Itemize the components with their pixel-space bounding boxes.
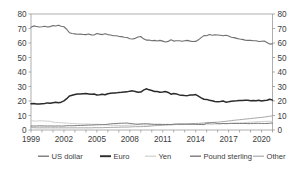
chart-container: 01020304050607080 01020304050607080 1999…: [0, 0, 304, 170]
legend-label-us-dollar: US dollar: [52, 152, 84, 161]
y-tick-label-left: 70: [17, 25, 27, 34]
y-tick-label-left: 30: [17, 83, 27, 92]
x-tick-label: 2020: [252, 135, 271, 144]
y-tick-label-left: 0: [22, 126, 27, 135]
y-tick-label-left: 60: [17, 39, 27, 48]
x-tick-label: 2002: [55, 135, 74, 144]
x-tick-label: 2005: [88, 135, 107, 144]
currency-composition-line-chart: 01020304050607080 01020304050607080 1999…: [0, 0, 304, 170]
y-tick-label-right: 40: [278, 68, 288, 77]
y-tick-label-right: 60: [278, 39, 288, 48]
y-tick-label-right: 0: [278, 126, 283, 135]
chart-legend: US dollarEuroYenPound sterlingOther: [38, 152, 286, 161]
x-tick-label: 2008: [121, 135, 140, 144]
x-tick-label: 2017: [219, 135, 238, 144]
y-tick-label-right: 10: [278, 112, 288, 121]
legend-label-other: Other: [267, 152, 286, 161]
chart-background: [0, 0, 304, 170]
legend-label-pound-sterling: Pound sterling: [204, 152, 253, 161]
y-tick-label-left: 50: [17, 54, 27, 63]
x-tick-label: 2014: [187, 135, 206, 144]
y-tick-label-left: 20: [17, 97, 27, 106]
legend-label-yen: Yen: [159, 152, 172, 161]
legend-label-euro: Euro: [114, 152, 130, 161]
y-tick-label-left: 40: [17, 68, 27, 77]
y-tick-label-right: 70: [278, 25, 288, 34]
y-axis-right-labels: 01020304050607080: [278, 10, 288, 135]
y-tick-label-right: 50: [278, 54, 288, 63]
x-tick-label: 1999: [22, 135, 41, 144]
y-tick-label-left: 80: [17, 10, 27, 19]
y-tick-label-right: 30: [278, 83, 288, 92]
x-tick-label: 2011: [154, 135, 172, 144]
y-tick-label-left: 10: [17, 112, 27, 121]
y-tick-label-right: 20: [278, 97, 288, 106]
y-tick-label-right: 80: [278, 10, 288, 19]
y-axis-left-labels: 01020304050607080: [17, 10, 27, 135]
